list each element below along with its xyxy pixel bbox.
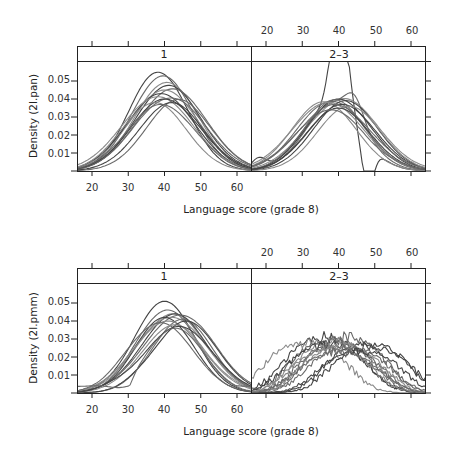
y-tick-label: 0.03: [48, 111, 70, 122]
density-chart-figure: Density (2l.pan) 0.01 0.02 0.03 0.04 0.0…: [0, 0, 458, 462]
x-tick-label: 40: [158, 404, 171, 415]
panel-bottom-left-curves: [78, 301, 252, 393]
figure-bottom-2l-pmm: Density (2l.pmm) 0.01 0.02 0.03 0.04 0.0…: [27, 247, 431, 437]
strip-label-top-left: 1: [161, 48, 168, 61]
y-tick-label: 0.01: [48, 370, 70, 381]
x-tick-label: 30: [122, 182, 135, 193]
x-tick-label: 40: [333, 25, 346, 36]
y-tick-label: 0.02: [48, 352, 70, 363]
x-axis-label-top: Language score (grade 8): [183, 203, 318, 215]
x-tick-label: 50: [195, 182, 208, 193]
x-tick-label: 60: [406, 247, 419, 258]
x-tick-label: 30: [297, 247, 310, 258]
strip-label-bottom-right: 2–3: [329, 270, 349, 283]
figure-top-2l-pan: Density (2l.pan) 0.01 0.02 0.03 0.04 0.0…: [27, 25, 431, 215]
y-tick-labels-top: 0.01 0.02 0.03 0.04 0.05: [48, 74, 70, 159]
x-tick-label: 60: [231, 182, 244, 193]
x-tick-label: 60: [406, 25, 419, 36]
y-tick-label: 0.04: [48, 93, 70, 104]
x-tick-label: 50: [370, 247, 383, 258]
x-tick-label: 60: [231, 404, 244, 415]
density-curve: [78, 104, 252, 169]
x-tick-label: 30: [122, 404, 135, 415]
y-tick-labels-bottom: 0.01 0.02 0.03 0.04 0.05: [48, 296, 70, 381]
x-tick-label: 40: [333, 247, 346, 258]
y-tick-label: 0.04: [48, 315, 70, 326]
x-tick-labels-bottom-top: 20 30 40 50 60: [261, 247, 419, 258]
y-axis-label-bottom: Density (2l.pmm): [27, 292, 39, 384]
x-tick-label: 20: [86, 404, 99, 415]
y-tick-label: 0.05: [48, 296, 70, 307]
x-tick-labels-top-bottom: 20 30 40 50 60: [86, 182, 244, 193]
x-tick-label: 50: [370, 25, 383, 36]
density-curve: [252, 108, 426, 169]
x-tick-label: 50: [195, 404, 208, 415]
x-tick-labels-top-top: 20 30 40 50 60: [261, 25, 419, 36]
x-tick-label: 20: [261, 25, 274, 36]
panel-top-left-curves: [78, 72, 252, 170]
density-curve: [78, 328, 252, 387]
y-tick-label: 0.01: [48, 148, 70, 159]
y-tick-label: 0.05: [48, 74, 70, 85]
x-tick-label: 20: [261, 247, 274, 258]
x-tick-label: 40: [158, 182, 171, 193]
strip-label-top-right: 2–3: [329, 48, 349, 61]
y-tick-label: 0.02: [48, 130, 70, 141]
y-tick-label: 0.03: [48, 333, 70, 344]
x-tick-label: 20: [86, 182, 99, 193]
x-axis-label-bottom: Language score (grade 8): [183, 425, 318, 437]
x-tick-label: 30: [297, 25, 310, 36]
panel-bottom-right-curves: [252, 332, 426, 394]
y-axis-label-top: Density (2l.pan): [27, 74, 39, 158]
strip-label-bottom-left: 1: [161, 270, 168, 283]
x-tick-labels-bottom-bottom: 20 30 40 50 60: [86, 404, 244, 415]
panel-top-right-curves: [252, 62, 426, 172]
